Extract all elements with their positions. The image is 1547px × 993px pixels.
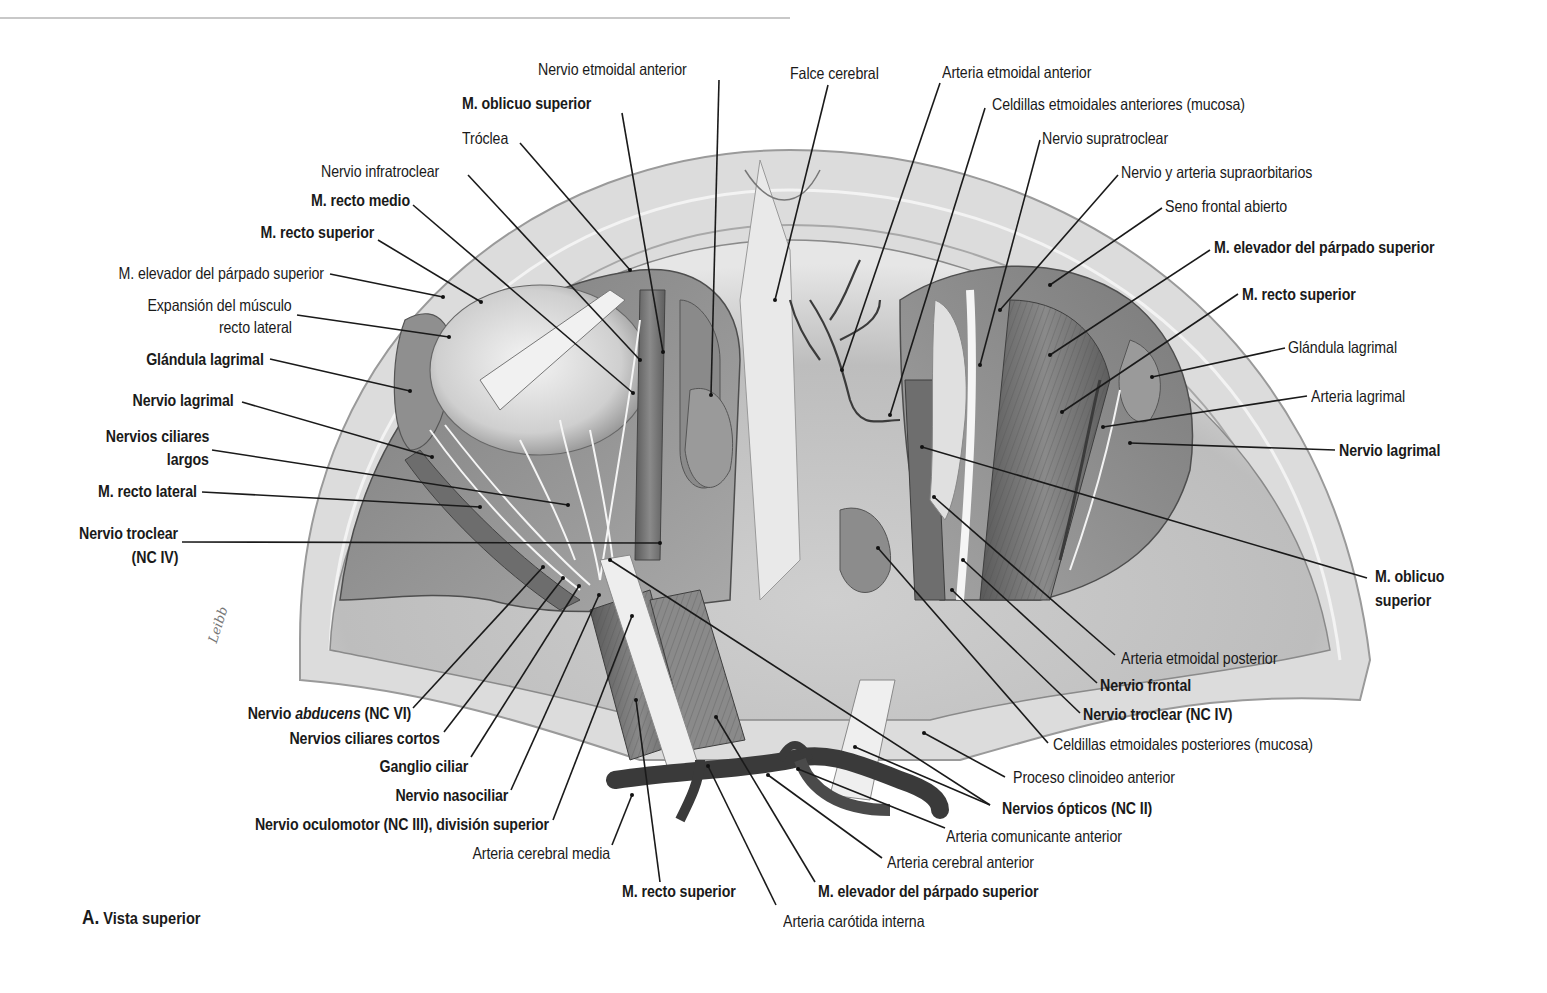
- label-arteria-carotida-interna: Arteria carótida interna: [783, 912, 924, 931]
- caption-letter: A.: [82, 906, 99, 928]
- label-nervios-opticos: Nervios ópticos (NC II): [1002, 799, 1152, 818]
- label-m-elevador-right: M. elevador del párpado superior: [1214, 238, 1434, 257]
- orbit-superior-view-illustration: [0, 0, 1547, 993]
- label-falce-cerebral: Falce cerebral: [790, 64, 879, 83]
- label-m-oblicuo-superior-right-line1: M. oblicuo: [1375, 567, 1444, 586]
- label-celdillas-etmoidales-anteriores: Celdillas etmoidales anteriores (mucosa): [992, 95, 1245, 114]
- label-seno-frontal-abierto: Seno frontal abierto: [1165, 197, 1287, 216]
- caption-text: Vista superior: [103, 909, 200, 928]
- label-m-recto-superior-bottom: M. recto superior: [622, 882, 736, 901]
- label-glandula-lagrimal-left: Glándula lagrimal: [146, 350, 264, 369]
- label-troclea: Tróclea: [462, 129, 508, 148]
- label-arteria-cerebral-anterior: Arteria cerebral anterior: [887, 853, 1034, 872]
- label-nervios-ciliares-largos-line1: Nervios ciliares: [105, 427, 209, 446]
- label-arteria-etmoidal-anterior: Arteria etmoidal anterior: [942, 63, 1091, 82]
- label-m-oblicuo-superior-top: M. oblicuo superior: [462, 94, 591, 113]
- label-arteria-cerebral-media: Arteria cerebral media: [472, 844, 610, 863]
- label-celdillas-etmoidales-posteriores: Celdillas etmoidales posteriores (mucosa…: [1053, 735, 1313, 754]
- label-nervios-ciliares-cortos: Nervios ciliares cortos: [290, 729, 440, 748]
- label-m-recto-superior-left: M. recto superior: [260, 223, 374, 242]
- label-nervio-etmoidal-anterior: Nervio etmoidal anterior: [538, 60, 687, 79]
- label-m-recto-medio: M. recto medio: [311, 191, 410, 210]
- label-m-elevador-bottom: M. elevador del párpado superior: [818, 882, 1038, 901]
- label-m-elevador-left: M. elevador del párpado superior: [119, 264, 324, 283]
- label-nervio-troclear-left-line2: (NC IV): [131, 548, 178, 567]
- label-arteria-comunicante-anterior: Arteria comunicante anterior: [946, 827, 1122, 846]
- label-m-recto-lateral: M. recto lateral: [98, 482, 197, 501]
- label-arteria-etmoidal-posterior: Arteria etmoidal posterior: [1121, 649, 1277, 668]
- label-nervio-lagrimal-right: Nervio lagrimal: [1339, 441, 1440, 460]
- label-nervio-troclear-right: Nervio troclear (NC IV): [1083, 705, 1232, 724]
- label-nervio-lagrimal-left: Nervio lagrimal: [133, 391, 234, 410]
- figure-caption: A. Vista superior: [82, 906, 201, 929]
- label-m-oblicuo-superior-right-line2: superior: [1375, 591, 1431, 610]
- label-nervio-troclear-left-line1: Nervio troclear: [79, 524, 178, 543]
- label-arteria-lagrimal: Arteria lagrimal: [1311, 387, 1405, 406]
- label-ganglio-ciliar: Ganglio ciliar: [379, 757, 468, 776]
- label-proceso-clinoideo-anterior: Proceso clinoideo anterior: [1013, 768, 1175, 787]
- label-nervio-abducens: Nervio abducens (NC VI): [247, 704, 411, 723]
- label-expansion-recto-lateral-line1: Expansión del músculo: [148, 296, 292, 315]
- label-m-recto-superior-right: M. recto superior: [1242, 285, 1356, 304]
- label-nervios-ciliares-largos-line2: largos: [167, 450, 209, 469]
- label-nervio-arteria-supraorbitarios: Nervio y arteria supraorbitarios: [1121, 163, 1312, 182]
- label-glandula-lagrimal-right: Glándula lagrimal: [1288, 338, 1397, 357]
- label-nervio-nasociliar: Nervio nasociliar: [395, 786, 508, 805]
- label-nervio-oculomotor: Nervio oculomotor (NC III), división sup…: [255, 815, 549, 834]
- label-nervio-infratroclear: Nervio infratroclear: [321, 162, 439, 181]
- label-nervio-frontal: Nervio frontal: [1100, 676, 1191, 695]
- label-nervio-supratroclear: Nervio supratroclear: [1042, 129, 1168, 148]
- label-expansion-recto-lateral-line2: recto lateral: [219, 318, 292, 337]
